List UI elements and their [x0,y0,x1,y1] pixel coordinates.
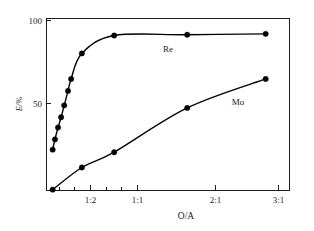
x-axis-ticks [60,185,279,191]
series-line-re [53,34,266,150]
data-point [111,33,116,38]
y-tick-label-50: 50 [33,99,43,109]
series-label-mo: Mo [232,97,245,107]
data-point [50,187,55,192]
chart-figure: 100 50 1:2 1:1 2:1 3:1 O/A E/% Re Mo [0,0,314,231]
data-point [185,32,190,37]
line-chart: 100 50 1:2 1:1 2:1 3:1 O/A E/% Re Mo [0,0,314,231]
data-point [185,105,190,110]
series-re [50,31,268,152]
data-point [111,149,116,154]
series-mo [50,76,268,192]
data-point [65,88,70,93]
data-point [68,76,73,81]
data-point [58,115,63,120]
data-point [55,125,60,130]
x-tick-label-2-1: 2:1 [210,195,222,205]
y-tick-label-100: 100 [29,16,43,26]
y-axis-title: E/% [14,97,24,113]
x-tick-label-1-1: 1:1 [132,195,144,205]
data-point [79,51,84,56]
series-layer [50,31,268,192]
data-point [79,165,84,170]
data-point [263,76,268,81]
data-point [50,147,55,152]
x-tick-label-1-2: 1:2 [85,195,97,205]
series-label-re: Re [163,44,173,54]
x-tick-label-3-1: 3:1 [273,195,285,205]
data-point [61,103,66,108]
x-axis-title: O/A [178,211,195,221]
data-point [52,137,57,142]
data-point [263,31,268,36]
series-line-mo [53,79,266,190]
y-axis-ticks [47,21,52,104]
